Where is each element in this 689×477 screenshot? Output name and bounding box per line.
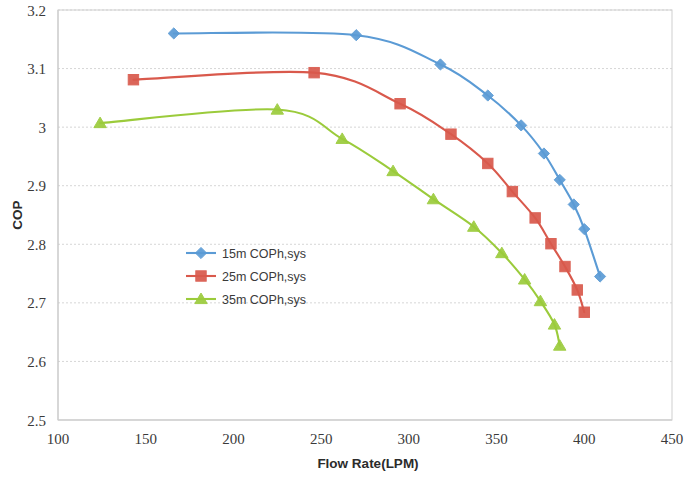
data-point-marker [579,307,589,317]
data-point-marker [546,239,556,249]
x-tick-label: 150 [134,431,157,447]
legend-marker-swatch [196,271,206,281]
y-tick-label: 2.8 [27,237,46,253]
data-point-marker [446,129,456,139]
chart-legend: 15m COPh,sys25m COPh,sys35m COPh,sys [186,247,306,307]
y-tick-label: 3.1 [27,61,46,77]
cop-vs-flow-rate-line-chart: 2.52.62.72.82.933.13.2 10015020025030035… [0,0,689,477]
data-point-marker [309,67,319,77]
legend-label: 15m COPh,sys [222,247,306,261]
y-tick-label: 2.9 [27,178,46,194]
y-axis-tick-labels: 2.52.62.72.82.933.13.2 [27,3,46,429]
legend-label: 35m COPh,sys [222,293,306,307]
legend-label: 25m COPh,sys [222,270,306,284]
x-tick-label: 450 [661,431,684,447]
data-point-marker [572,285,582,295]
x-tick-label: 200 [222,431,245,447]
chart-container: 2.52.62.72.82.933.13.2 10015020025030035… [0,0,689,477]
x-tick-label: 250 [310,431,333,447]
y-tick-label: 2.7 [27,295,46,311]
y-tick-label: 3 [39,120,47,136]
data-point-marker [530,213,540,223]
legend-item[interactable]: 25m COPh,sys [186,270,306,284]
y-tick-label: 2.6 [27,354,46,370]
data-point-marker [560,261,570,271]
data-point-marker [483,158,493,168]
y-tick-label: 2.5 [27,413,46,429]
plot-background [58,10,672,420]
x-tick-label: 100 [47,431,70,447]
data-point-marker [128,75,138,85]
data-point-marker [507,186,517,196]
x-tick-label: 350 [485,431,508,447]
x-tick-label: 400 [573,431,596,447]
y-tick-label: 3.2 [27,3,46,19]
x-axis-title: Flow Rate(LPM) [317,456,418,471]
y-axis-title: COP [10,200,25,229]
data-point-marker [395,99,405,109]
x-tick-label: 300 [398,431,421,447]
x-axis-tick-labels: 100150200250300350400450 [47,431,684,447]
